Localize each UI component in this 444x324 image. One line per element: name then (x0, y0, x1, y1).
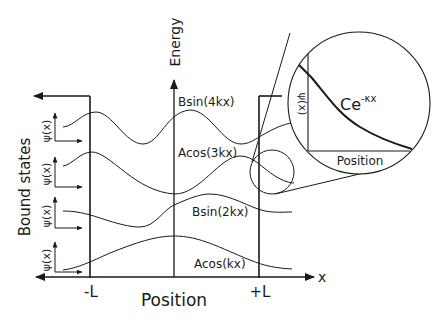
psi-label-2: ψ(x) (40, 163, 53, 185)
curve-acos-kx (63, 236, 292, 270)
minus-l-label: -L (84, 283, 98, 301)
x-axis-label: x (318, 269, 326, 285)
curve-bsin-2kx (63, 194, 292, 227)
psi-label-1: ψ(x) (40, 120, 53, 142)
mini-axes (55, 113, 82, 272)
small-highlight-circle (250, 150, 294, 194)
potential-well (34, 80, 314, 278)
inset-psi-label: ψ(x) (296, 93, 309, 115)
mini-axis-labels: ψ(x) ψ(x) ψ(x) ψ(x) (40, 120, 53, 271)
inset-circle: ψ(x) Position Ce-κx (288, 20, 430, 174)
psi-label-3: ψ(x) (40, 205, 53, 227)
inset-position-label: Position (337, 154, 384, 168)
inset-curve-base: Ce (340, 95, 361, 114)
position-label: Position (141, 290, 207, 310)
plus-l-label: +L (250, 283, 272, 301)
diagram-canvas: ψ(x) ψ(x) ψ(x) ψ(x) Bsin(4kx) Acos(3kx) … (0, 0, 444, 324)
label-acos-3kx: Acos(3kx) (178, 146, 237, 160)
label-bsin-2kx: Bsin(2kx) (192, 205, 248, 219)
label-bsin-4kx: Bsin(4kx) (178, 95, 234, 109)
psi-label-4: ψ(x) (40, 249, 53, 271)
label-acos-kx: Acos(kx) (194, 257, 246, 271)
energy-label: Energy (167, 17, 183, 66)
inset-curve-exp: -κx (361, 93, 377, 104)
bound-states-label: Bound states (16, 138, 34, 237)
